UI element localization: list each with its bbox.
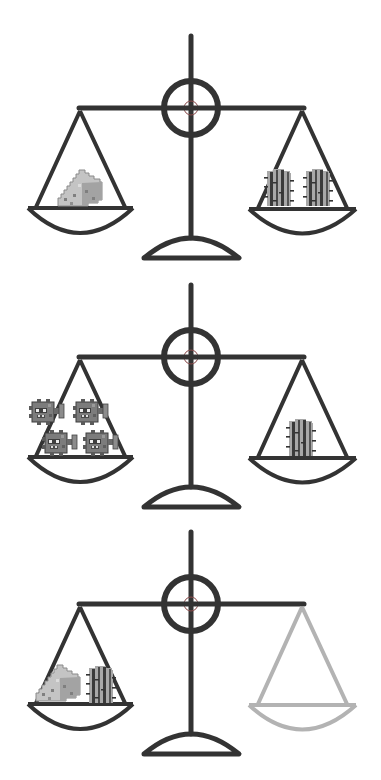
- pufferfish-icon: [42, 430, 77, 456]
- right-pan: [249, 111, 356, 234]
- right-pan-empty: [249, 607, 356, 730]
- cactus-icon: [264, 169, 294, 206]
- cheese-icon: [36, 665, 80, 701]
- left-pan: [28, 607, 133, 729]
- cactus-icon: [303, 169, 333, 206]
- scale-3: [28, 532, 356, 754]
- pufferfish-icon: [73, 399, 108, 425]
- scale-2: [28, 285, 356, 507]
- scales-illustration: [0, 0, 381, 780]
- cactus-icon: [86, 666, 116, 703]
- cheese-icon: [58, 170, 102, 206]
- puzzle-canvas: [0, 0, 381, 780]
- cactus-icon: [286, 419, 316, 456]
- scale-1: [28, 36, 356, 258]
